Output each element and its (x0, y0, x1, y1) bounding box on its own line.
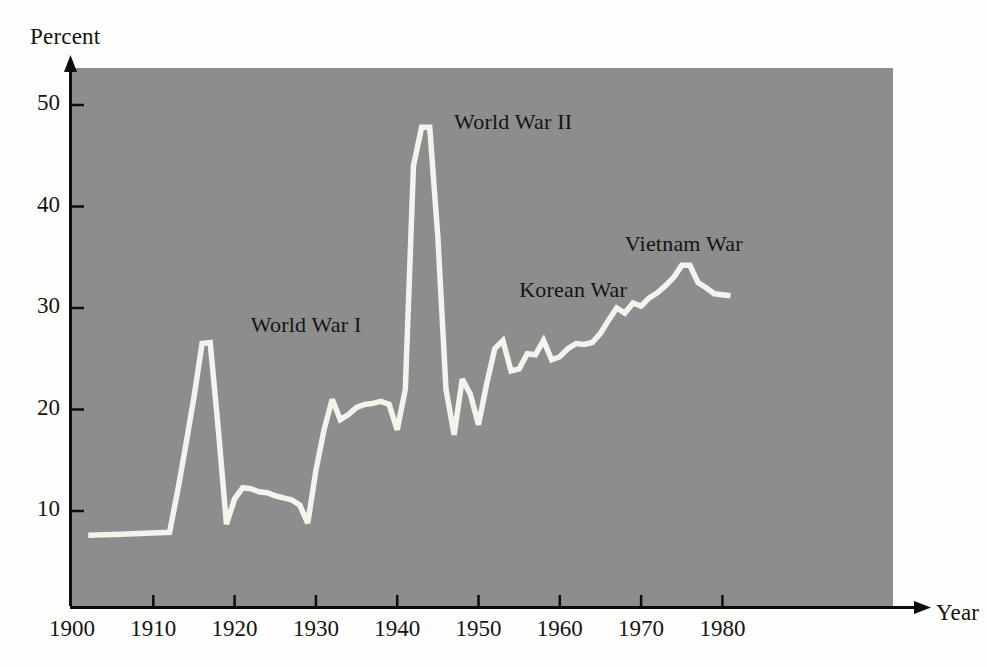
chart-container: Percent Year 1020304050 1900191019201930… (0, 0, 987, 667)
x-tick-label: 1980 (682, 616, 762, 642)
y-tick-label: 20 (14, 395, 60, 421)
x-tick-label: 1930 (276, 616, 356, 642)
y-tick-label: 50 (14, 90, 60, 116)
x-tick-label: 1920 (195, 616, 275, 642)
x-tick-label: 1910 (113, 616, 193, 642)
line-chart-canvas (0, 0, 987, 667)
annotation-world-war-1: World War I (251, 312, 362, 338)
x-tick-label: 1960 (520, 616, 600, 642)
y-tick-label: 30 (14, 293, 60, 319)
annotation-vietnam-war: Vietnam War (625, 231, 743, 257)
y-tick-label: 10 (14, 496, 60, 522)
y-tick-label: 40 (14, 192, 60, 218)
x-tick-label: 1900 (32, 616, 112, 642)
x-axis-title: Year (936, 600, 979, 626)
x-axis-arrowhead (914, 601, 931, 614)
y-axis-title: Percent (30, 24, 100, 50)
plot-area-background (72, 68, 893, 606)
annotation-world-war-2: World War II (454, 109, 572, 135)
x-tick-label: 1970 (601, 616, 681, 642)
y-axis-arrowhead (64, 55, 77, 72)
x-tick-label: 1950 (439, 616, 519, 642)
x-tick-label: 1940 (357, 616, 437, 642)
annotation-korean-war: Korean War (519, 277, 627, 303)
